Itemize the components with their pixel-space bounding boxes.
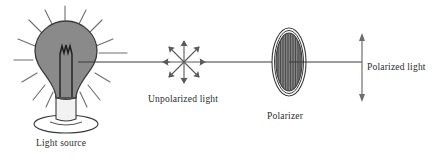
label-polarized-light: Polarized light — [367, 62, 426, 72]
light-ray-icon — [95, 73, 110, 82]
light-ray-icon — [79, 10, 86, 24]
starburst-arrow-icon — [184, 59, 205, 65]
polarized-arrow-head-up — [359, 33, 365, 41]
starburst-arrow-icon — [184, 62, 199, 77]
light-ray-icon — [96, 39, 113, 46]
starburst-arrow-icon — [169, 47, 184, 62]
diagram-canvas — [0, 0, 436, 159]
light-ray-icon — [89, 20, 102, 33]
polarized-arrow-head-down — [359, 94, 365, 102]
light-ray-icon — [33, 85, 45, 100]
light-ray-icon — [18, 39, 35, 46]
light-ray-icon — [45, 10, 52, 24]
light-ray-icon — [46, 92, 53, 107]
starburst-arrow-icon — [184, 47, 199, 62]
light-ray-icon — [22, 73, 37, 82]
polarized-light-arrow — [359, 33, 365, 102]
light-ray-icon — [88, 85, 100, 100]
light-source-group — [14, 6, 127, 133]
starburst-arrow-icon — [169, 62, 184, 77]
starburst-arrow-icon — [181, 41, 187, 62]
light-ray-icon — [29, 20, 42, 33]
label-polarizer: Polarizer — [267, 111, 303, 121]
polarization-diagram: Light source Unpolarized light Polarizer… — [0, 0, 436, 159]
starburst-arrow-icon — [163, 59, 184, 65]
unpolarized-light-group — [163, 41, 205, 83]
starburst-arrow-icon — [181, 62, 187, 83]
light-ray-icon — [80, 92, 87, 107]
label-light-source: Light source — [36, 138, 86, 148]
label-unpolarized-light: Unpolarized light — [148, 94, 218, 104]
